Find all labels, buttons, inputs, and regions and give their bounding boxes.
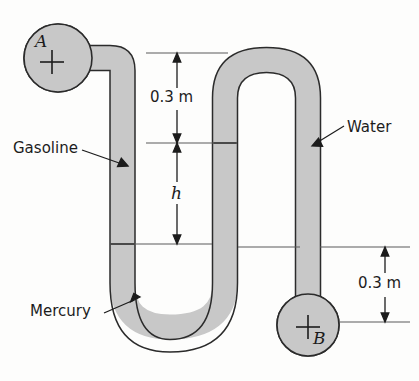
dimension-right-label: 0.3 m [356,276,403,291]
gasoline-label: Gasoline [13,141,78,156]
manometer-figure: A B Gasoline Water Mercury 0.3 m h 0.3 m [0,0,419,381]
dimension-top-label: 0.3 m [148,90,195,105]
manometer-diagram-svg [0,0,419,381]
water-label: Water [347,120,391,135]
point-a-label: A [35,33,47,50]
point-b-label: B [313,330,326,347]
tube-geometry [0,0,419,381]
dimension-h-label: h [169,185,184,202]
mercury-label: Mercury [30,304,91,319]
